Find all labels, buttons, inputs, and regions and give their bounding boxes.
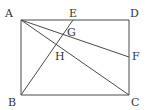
point-label-a: A (4, 7, 14, 20)
geometry-diagram: AEDGHFBC (0, 0, 148, 110)
point-label-g: G (67, 26, 76, 39)
point-label-b: B (8, 96, 16, 109)
segment-BE (21, 20, 73, 95)
point-label-f: F (132, 50, 140, 63)
point-label-h: H (55, 50, 65, 63)
point-label-c: C (131, 96, 139, 109)
point-label-e: E (69, 7, 77, 20)
point-label-d: D (130, 7, 139, 20)
